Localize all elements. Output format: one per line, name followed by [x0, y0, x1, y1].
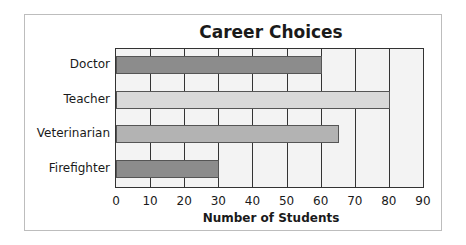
plot-area	[115, 48, 424, 188]
x-tick-label: 10	[142, 194, 157, 208]
x-axis-label: Number of Students	[0, 211, 466, 225]
category-label: Veterinarian	[37, 126, 110, 140]
category-label: Teacher	[63, 92, 110, 106]
gridline	[355, 49, 356, 187]
x-tick-label: 50	[279, 194, 294, 208]
bar-teacher	[116, 91, 390, 109]
bar-firefighter	[116, 160, 219, 178]
x-tick-label: 20	[177, 194, 192, 208]
category-label: Doctor	[70, 57, 110, 71]
gridline	[389, 49, 390, 187]
x-tick-label: 40	[245, 194, 260, 208]
bar-doctor	[116, 56, 322, 74]
x-tick-label: 30	[211, 194, 226, 208]
x-tick-label: 70	[347, 194, 362, 208]
x-tick-label: 0	[112, 194, 120, 208]
x-tick-label: 60	[313, 194, 328, 208]
x-tick-label: 80	[381, 194, 396, 208]
category-label: Firefighter	[49, 161, 110, 175]
bar-veterinarian	[116, 125, 339, 143]
x-tick-label: 90	[415, 194, 430, 208]
chart-title: Career Choices	[0, 22, 466, 42]
